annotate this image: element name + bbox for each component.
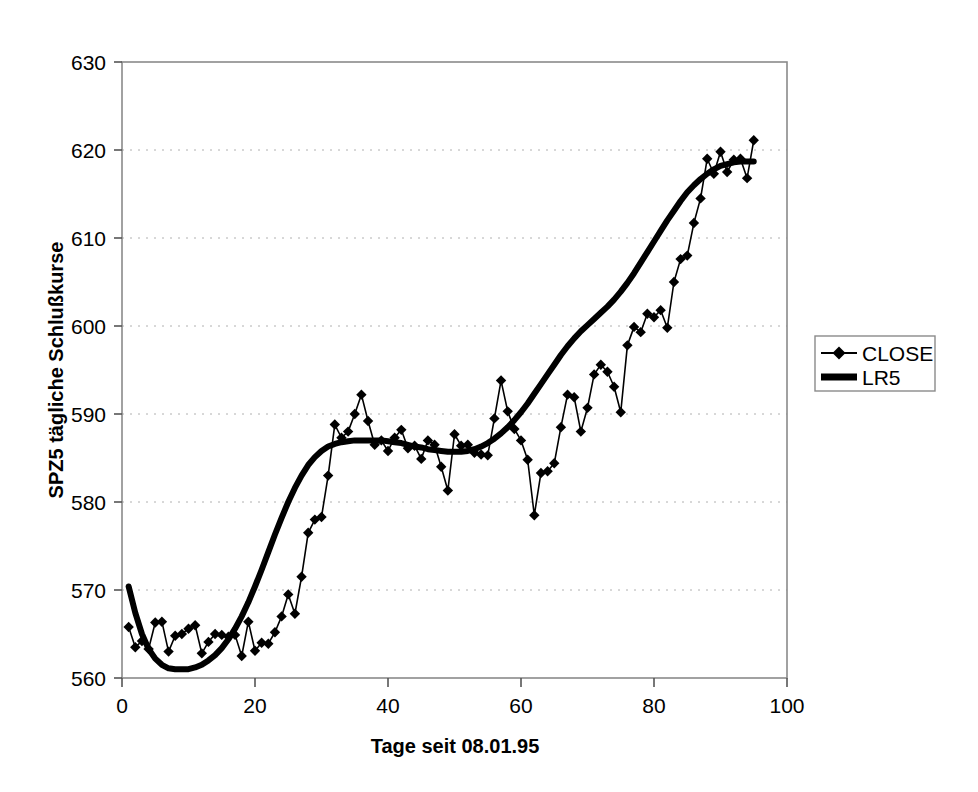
legend: CLOSE LR5: [815, 336, 935, 391]
y-tick-label: 600: [71, 315, 106, 338]
canvas-background: [0, 0, 978, 792]
y-tick-label: 590: [71, 403, 106, 426]
x-tick-label: 100: [769, 694, 804, 717]
y-tick-label: 570: [71, 579, 106, 602]
legend-label-lr5: LR5: [862, 366, 901, 389]
y-tick-label: 610: [71, 227, 106, 250]
x-tick-label: 80: [642, 694, 665, 717]
y-axis-title: SPZ5 tägliche Schlußkurse: [45, 242, 67, 499]
x-tick-label: 20: [243, 694, 266, 717]
chart-container: 560570580590600610620630 020406080100 SP…: [0, 0, 978, 792]
y-tick-label: 630: [71, 51, 106, 74]
x-tick-label: 60: [509, 694, 532, 717]
x-axis-title: Tage seit 08.01.95: [371, 735, 540, 757]
x-tick-label: 40: [376, 694, 399, 717]
y-tick-label: 580: [71, 491, 106, 514]
legend-label-close: CLOSE: [862, 342, 933, 365]
y-tick-label: 560: [71, 667, 106, 690]
y-tick-label: 620: [71, 139, 106, 162]
chart-canvas: 560570580590600610620630 020406080100 SP…: [0, 0, 978, 792]
x-tick-label: 0: [116, 694, 128, 717]
